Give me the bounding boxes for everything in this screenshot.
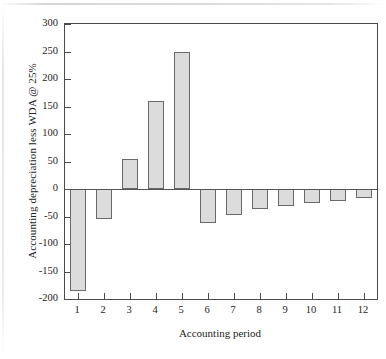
x-tick-label: 8: [246, 304, 272, 315]
y-tick-label: 0: [18, 183, 58, 194]
y-tick: [65, 107, 71, 108]
x-tick: [312, 293, 313, 299]
x-tick-label: 6: [194, 304, 220, 315]
y-tick-label: -100: [18, 238, 58, 249]
x-axis-label: Accounting period: [60, 327, 380, 339]
x-tick: [78, 293, 79, 299]
chart-figure: Accounting depreciation less WDA @ 25% 3…: [0, 0, 386, 359]
x-tick: [104, 293, 105, 299]
y-tick-label: -50: [18, 210, 58, 221]
x-tick: [130, 293, 131, 299]
x-tick-label: 7: [220, 304, 246, 315]
y-tick: [65, 134, 71, 135]
x-tick: [286, 293, 287, 299]
x-tick: [260, 293, 261, 299]
x-tick-label: 11: [324, 304, 350, 315]
x-tick-label: 5: [168, 304, 194, 315]
bar: [96, 189, 112, 219]
y-tick: [65, 24, 71, 25]
x-tick: [234, 293, 235, 299]
x-tick: [364, 293, 365, 299]
y-tick-label: 150: [18, 100, 58, 111]
bar: [252, 189, 268, 209]
x-tick: [338, 293, 339, 299]
bar: [70, 189, 86, 291]
y-tick: [65, 79, 71, 80]
bar: [356, 189, 372, 198]
y-tick: [65, 162, 71, 163]
y-tick-label: -200: [18, 293, 58, 304]
bar: [226, 189, 242, 215]
y-tick-label: 200: [18, 73, 58, 84]
y-tick-label: 50: [18, 155, 58, 166]
bar: [174, 52, 190, 190]
y-tick-label: 100: [18, 128, 58, 139]
x-tick-label: 10: [298, 304, 324, 315]
scan-artifact-left: [2, 0, 4, 359]
x-tick-label: 12: [350, 304, 376, 315]
y-tick-label: 250: [18, 45, 58, 56]
scan-artifact-top: [0, 3, 386, 5]
x-tick-label: 1: [64, 304, 90, 315]
x-tick: [208, 293, 209, 299]
bar: [148, 101, 164, 189]
bar: [278, 189, 294, 206]
x-tick-label: 2: [90, 304, 116, 315]
zero-baseline: [65, 189, 377, 190]
x-tick-label: 3: [116, 304, 142, 315]
y-tick: [65, 299, 71, 300]
plot-area: [64, 23, 378, 300]
bar: [122, 159, 138, 189]
bar: [200, 189, 216, 223]
x-tick: [156, 293, 157, 299]
y-tick-label: 300: [18, 18, 58, 29]
x-tick-label: 9: [272, 304, 298, 315]
y-tick: [65, 52, 71, 53]
x-tick: [182, 293, 183, 299]
bar: [304, 189, 320, 203]
bar: [330, 189, 346, 201]
y-tick-label: -150: [18, 265, 58, 276]
x-tick-label: 4: [142, 304, 168, 315]
